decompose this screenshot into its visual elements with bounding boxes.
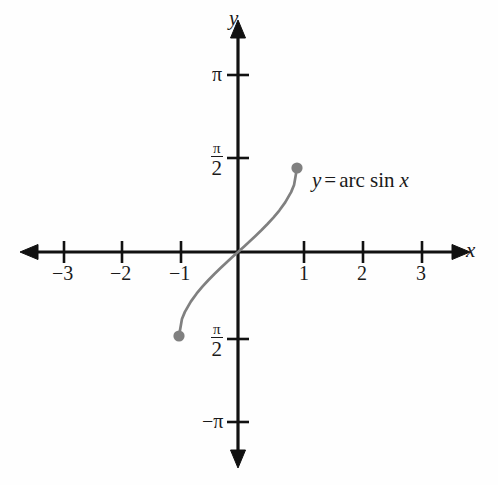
x-axis-label: x <box>466 240 475 261</box>
lower-endpoint-dot <box>173 330 184 341</box>
x-tick-label--2: −2 <box>110 263 131 283</box>
x-tick-label-2: 2 <box>357 263 367 283</box>
y-tick-label-pi: π <box>212 64 222 84</box>
x-tick-label--3: −3 <box>52 263 73 283</box>
x-tick-label-3: 3 <box>416 263 426 283</box>
equation-function: arc sin <box>339 168 394 192</box>
fraction-denominator: 2 <box>211 157 223 179</box>
y-tick-label-pi-over-2: π 2 <box>211 140 223 180</box>
fraction-numerator: π <box>211 322 223 338</box>
upper-endpoint-dot <box>291 162 302 173</box>
equation-x: x <box>395 168 409 192</box>
x-tick-label--1: −1 <box>169 263 190 283</box>
y-tick-label-neg-pi-over-2: π 2 <box>211 321 223 361</box>
x-axis-arrow-left <box>20 245 38 260</box>
curve-equation-label: y=arc sinx <box>312 170 409 191</box>
fraction-denominator: 2 <box>211 338 223 360</box>
equation-equals: = <box>321 168 339 192</box>
graph-svg <box>0 0 498 485</box>
y-tick-label-neg-pi: −π <box>202 411 223 431</box>
equation-y: y <box>312 168 321 192</box>
figure-canvas: x y −3 −2 −1 1 2 3 π π 2 π 2 −π y=arc si… <box>0 0 498 485</box>
y-axis-label: y <box>229 8 238 29</box>
x-tick-label-1: 1 <box>299 263 309 283</box>
fraction-numerator: π <box>211 141 223 157</box>
y-axis-arrow-down <box>231 450 246 468</box>
